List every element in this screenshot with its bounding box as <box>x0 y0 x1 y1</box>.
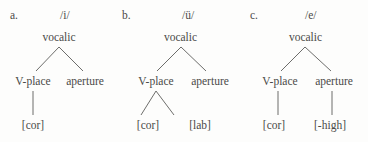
tree-c-node-aperture: aperture <box>306 74 362 89</box>
tree-b-leaf-lab: [lab] <box>176 118 224 133</box>
tree-c-leaf-cor: [cor] <box>249 118 299 133</box>
edge-vocalic-to-aperture <box>305 47 331 71</box>
edge-vocalic-to-aperture <box>181 47 206 71</box>
tree-a-node-aperture: aperture <box>58 74 112 89</box>
tree-a-letter: a. <box>10 7 18 23</box>
tree-b-phoneme: /ü/ <box>182 7 194 23</box>
tree-b-node-vocalic: vocalic <box>118 30 243 45</box>
tree-b-letter: b. <box>122 7 131 23</box>
tree-a-phoneme: /i/ <box>60 7 70 23</box>
edge-vocalic-to-aperture <box>59 47 83 71</box>
tree-c: c. /e/ vocalic V-place aperture [cor] [-… <box>243 0 368 142</box>
edge-vocalic-to-vplace <box>281 47 305 71</box>
tree-c-leaf-minus-high: [-high] <box>300 118 360 133</box>
edge-vocalic-to-vplace <box>157 47 181 71</box>
tree-b-leaf-cor: [cor] <box>124 118 172 133</box>
tree-c-letter: c. <box>250 7 258 23</box>
tree-a-leaf-cor: [cor] <box>6 118 60 133</box>
tree-c-node-vocalic: vocalic <box>243 30 368 45</box>
tree-b: b. /ü/ vocalic V-place aperture [cor] [l… <box>118 0 243 142</box>
edge-vplace-to-cor <box>141 91 156 115</box>
tree-a-node-vplace: V-place <box>6 74 60 89</box>
tree-b-node-vplace: V-place <box>129 74 183 89</box>
tree-c-node-vplace: V-place <box>253 74 307 89</box>
tree-c-phoneme: /e/ <box>305 7 317 23</box>
edge-vplace-to-lab <box>156 91 174 115</box>
edge-vocalic-to-vplace <box>36 47 59 71</box>
tree-a-node-vocalic: vocalic <box>0 30 118 45</box>
tree-b-node-aperture: aperture <box>182 74 238 89</box>
feature-geometry-figure: a. /i/ vocalic V-place aperture [cor] b.… <box>0 0 368 142</box>
tree-a: a. /i/ vocalic V-place aperture [cor] <box>0 0 118 142</box>
